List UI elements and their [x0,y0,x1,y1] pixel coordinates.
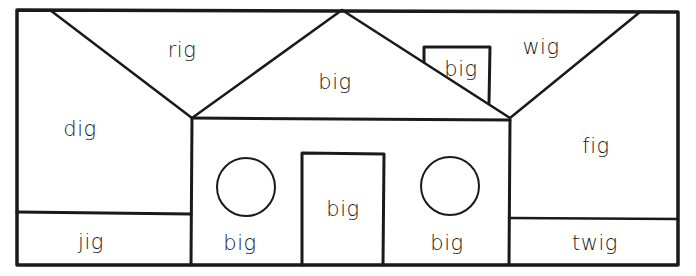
label-ground-right: twig [572,231,618,255]
label-roof-right: wig [522,35,559,59]
label-chimney: big [444,57,477,81]
house-wall-right [509,120,510,265]
label-roof-left: rig [168,38,197,62]
label-wall-left: dig [63,117,96,141]
ground-line-left [17,212,191,214]
house-top [192,118,510,120]
roof-peak-left [192,10,342,118]
roof-left-edge [50,10,192,118]
label-ground-left: jig [78,230,104,254]
label-roof-center: big [318,70,351,94]
window-left [217,158,275,216]
window-right [421,157,479,215]
ground-line-right [509,218,678,219]
label-wall-right: fig [582,134,609,158]
house-wall-left [191,118,192,265]
roof-right-edge [510,12,640,118]
label-door: big [326,197,359,221]
label-house-right: big [430,231,463,255]
roof-peak-right [342,10,510,118]
outer-frame [17,10,678,265]
label-house-left: big [223,231,256,255]
